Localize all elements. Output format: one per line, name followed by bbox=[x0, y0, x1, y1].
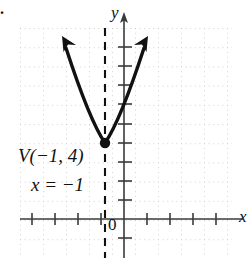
vertex-coordinate-label: V(−1, 4) bbox=[18, 146, 84, 165]
graph-canvas bbox=[0, 0, 247, 264]
y-axis-label: y bbox=[111, 4, 119, 21]
parabola-figure: . bbox=[0, 0, 247, 264]
vertex-point-marker bbox=[100, 138, 110, 148]
origin-label: 0 bbox=[108, 216, 117, 233]
x-axis-label: x bbox=[239, 208, 247, 225]
axis-of-symmetry-label: x = −1 bbox=[31, 175, 84, 194]
